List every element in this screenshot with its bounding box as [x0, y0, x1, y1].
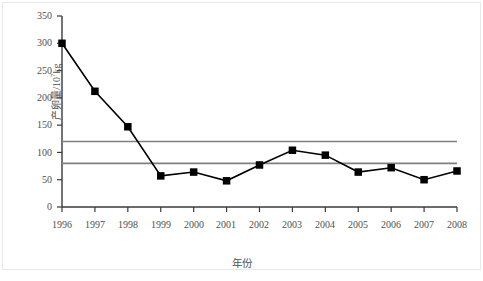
y-tick-label-250: 250	[20, 66, 52, 76]
data-point-2003	[289, 147, 297, 155]
y-axis-title-prefix: 产卵量/10	[51, 77, 62, 120]
data-point-1999	[157, 172, 165, 180]
y-tick-label-300: 300	[20, 38, 52, 48]
chart-figure: 350 300 250 200 150 100 50 0 1996 1997 1…	[0, 0, 483, 281]
data-point-2002	[256, 161, 264, 169]
y-axis-title-exponent: 7	[49, 74, 57, 78]
x-tick-label-1997: 1997	[77, 220, 113, 230]
data-point-1998	[124, 123, 132, 131]
data-point-2006	[387, 164, 395, 172]
data-point-2004	[322, 151, 330, 159]
x-tick-label-2003: 2003	[274, 220, 310, 230]
y-axis-title: 产卵量/107kg	[50, 47, 61, 137]
x-axis-title: 年份	[0, 255, 483, 270]
x-tick-label-2008: 2008	[439, 220, 475, 230]
x-tick-label-2007: 2007	[406, 220, 442, 230]
y-tick-label-100: 100	[20, 148, 52, 158]
y-tick-label-200: 200	[20, 93, 52, 103]
data-point-2000	[190, 168, 198, 176]
data-series-line	[62, 43, 457, 181]
x-tick-label-2006: 2006	[373, 220, 409, 230]
x-tick-label-2001: 2001	[208, 220, 244, 230]
x-tick-label-2005: 2005	[340, 220, 376, 230]
y-tick-label-0: 0	[20, 202, 52, 212]
data-point-1997	[91, 88, 99, 96]
y-tick-label-350: 350	[20, 11, 52, 21]
data-point-2008	[453, 167, 461, 175]
x-tick-label-2000: 2000	[176, 220, 212, 230]
x-tick-label-1996: 1996	[44, 220, 80, 230]
y-tick-label-50: 50	[20, 175, 52, 185]
x-tick-label-2002: 2002	[241, 220, 277, 230]
x-tick-label-2004: 2004	[307, 220, 343, 230]
data-point-2005	[355, 168, 363, 176]
y-tick-label-150: 150	[20, 120, 52, 130]
data-point-2001	[223, 177, 231, 185]
line-chart-plot	[0, 0, 483, 281]
data-point-2007	[420, 176, 428, 184]
x-axis-ticks	[62, 207, 457, 212]
y-axis-title-suffix: kg	[51, 64, 62, 74]
x-tick-label-1998: 1998	[110, 220, 146, 230]
x-tick-label-1999: 1999	[143, 220, 179, 230]
